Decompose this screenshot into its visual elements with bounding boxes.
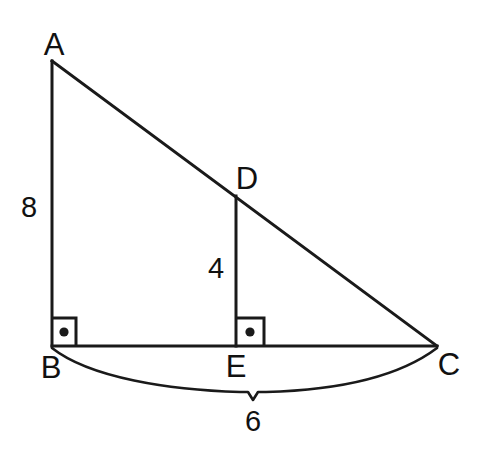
measure-label-ab: 8 [21,193,37,222]
diagram-canvas: A B C D E 8 4 6 [0,0,477,461]
geometry-figure [0,0,477,461]
right-angle-marker-b [53,318,76,345]
measure-label-bc: 6 [245,407,261,436]
right-angle-marker-e [237,318,264,345]
vertex-label-a: A [44,29,65,60]
vertex-label-b: B [41,352,62,383]
vertex-label-e: E [226,351,247,382]
right-angle-dot-e [245,327,254,336]
right-angle-dot-b [59,327,68,336]
vertex-label-c: C [438,349,460,380]
segment-ac [52,61,437,346]
measure-label-de: 4 [208,254,224,283]
vertex-label-d: D [236,163,258,194]
